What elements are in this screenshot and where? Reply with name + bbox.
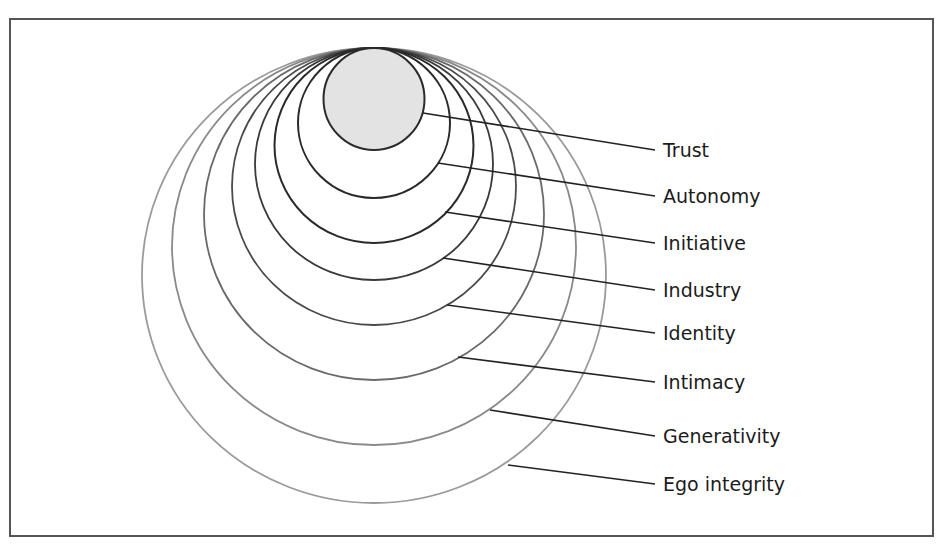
stage-label-initiative: Initiative: [663, 232, 746, 254]
stage-label-autonomy: Autonomy: [663, 185, 761, 207]
circles-group: [142, 48, 606, 503]
leader-line-trust: [423, 113, 655, 150]
stage-circle-trust: [324, 48, 425, 150]
stage-label-intimacy: Intimacy: [663, 371, 745, 393]
leader-line-generativity: [490, 410, 655, 436]
leader-line-intimacy: [458, 357, 655, 382]
stage-label-identity: Identity: [663, 322, 736, 344]
stage-label-ego-integrity: Ego integrity: [663, 473, 785, 495]
stage-label-trust: Trust: [662, 139, 709, 161]
labels-group: Trust Autonomy Initiative Industry Ident…: [662, 139, 785, 495]
leader-line-initiative: [445, 212, 655, 243]
leader-line-autonomy: [438, 163, 655, 196]
leader-line-ego-integrity: [508, 465, 655, 484]
stage-label-generativity: Generativity: [663, 425, 781, 447]
leader-line-identity: [447, 305, 655, 333]
nested-circles-diagram: Trust Autonomy Initiative Industry Ident…: [0, 0, 948, 547]
stage-label-industry: Industry: [663, 279, 741, 301]
